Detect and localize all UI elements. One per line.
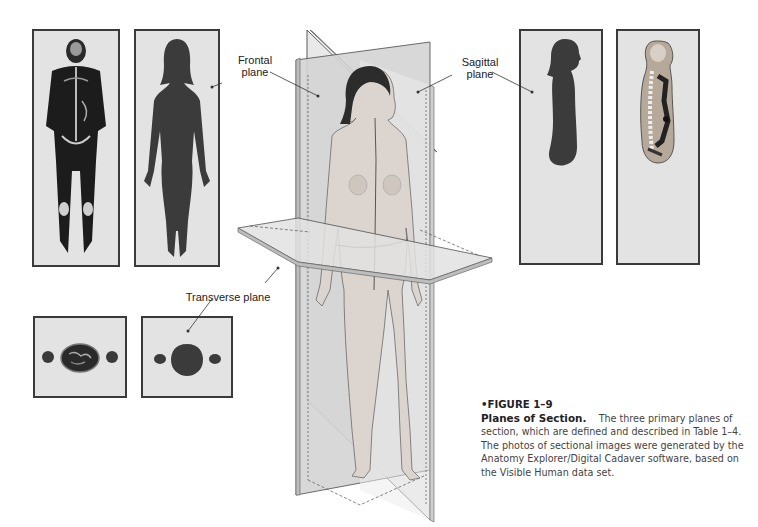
sagittal-silhouette-image — [521, 31, 601, 263]
sagittal-label-line2: plane — [455, 68, 505, 80]
transverse-silhouette-panel — [141, 316, 233, 398]
figure-caption: •FIGURE 1–9 Planes of Section. The three… — [481, 398, 756, 480]
frontal-plane-label: Frontal plane — [230, 54, 280, 78]
frontal-label-line1: Frontal — [230, 54, 280, 66]
sagittal-scan-image — [618, 31, 698, 263]
frontal-scan-image — [34, 31, 118, 265]
frontal-silhouette-image — [136, 31, 218, 265]
sagittal-silhouette-panel — [519, 29, 603, 265]
sagittal-label-line1: Sagittal — [455, 56, 505, 68]
frontal-label-line2: plane — [230, 66, 280, 78]
transverse-plane-label: Transverse plane — [178, 291, 278, 303]
sagittal-plane-label: Sagittal plane — [455, 56, 505, 80]
frontal-scan-panel — [32, 29, 120, 267]
transverse-silhouette-image — [143, 318, 231, 396]
caption-title: Planes of Section. — [481, 412, 586, 424]
figure-number: •FIGURE 1–9 — [481, 398, 756, 412]
frontal-silhouette-panel — [134, 29, 220, 267]
transverse-scan-image — [35, 318, 125, 396]
caption-text: Planes of Section. The three primary pla… — [481, 412, 756, 480]
sagittal-scan-panel — [616, 29, 700, 265]
transverse-scan-panel — [33, 316, 127, 398]
